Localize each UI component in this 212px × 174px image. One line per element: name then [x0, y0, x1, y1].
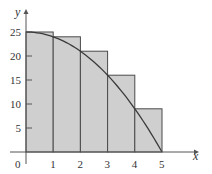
rectangles — [26, 32, 162, 152]
y-tick-20: 20 — [10, 50, 22, 62]
y-tick-10: 10 — [10, 98, 22, 110]
x-tick-4: 4 — [132, 158, 138, 170]
y-tick-25: 25 — [10, 26, 22, 38]
riemann-sum-chart: 012345510152025 x y — [0, 0, 212, 174]
y-axis-label: y — [14, 5, 21, 19]
x-tick-0: 0 — [15, 158, 21, 170]
rectangle-3 — [80, 51, 107, 152]
x-tick-3: 3 — [105, 158, 111, 170]
y-axis-arrow-icon — [24, 9, 29, 14]
rectangle-4 — [108, 75, 135, 152]
x-tick-5: 5 — [159, 158, 165, 170]
x-tick-2: 2 — [77, 158, 83, 170]
y-tick-5: 5 — [16, 122, 22, 134]
x-axis-label: x — [192, 149, 199, 163]
rectangle-1 — [26, 32, 53, 152]
rectangle-2 — [53, 37, 80, 152]
y-tick-15: 15 — [10, 74, 22, 86]
x-tick-1: 1 — [50, 158, 56, 170]
